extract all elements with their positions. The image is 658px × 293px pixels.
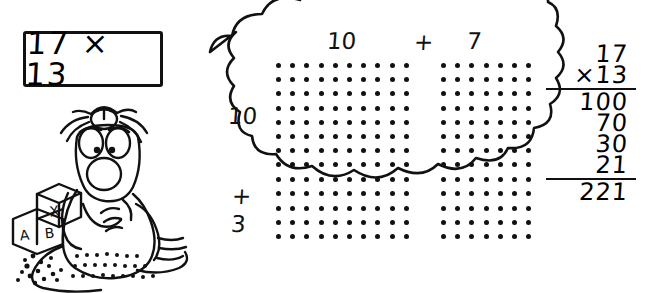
array-dot bbox=[390, 220, 395, 225]
array-dot bbox=[319, 77, 324, 82]
long-multiplication: 17 ×13 100 70 30 21 221 bbox=[552, 44, 636, 203]
array-dot bbox=[276, 191, 281, 196]
array-dot bbox=[526, 206, 531, 211]
array-dot bbox=[441, 234, 446, 239]
array-dot bbox=[347, 148, 352, 153]
array-dot bbox=[347, 234, 352, 239]
array-dot bbox=[484, 134, 489, 139]
partial-product-4: 21 bbox=[551, 155, 636, 176]
array-dot bbox=[526, 63, 531, 68]
array-dot bbox=[304, 177, 309, 182]
array-dot bbox=[304, 220, 309, 225]
column-header-7: 7 bbox=[466, 30, 482, 53]
array-dot bbox=[361, 177, 366, 182]
array-dot bbox=[361, 191, 366, 196]
array-dot bbox=[455, 220, 460, 225]
array-dot bbox=[498, 134, 503, 139]
array-dot bbox=[390, 77, 395, 82]
array-dot bbox=[290, 63, 295, 68]
array-dot bbox=[526, 77, 531, 82]
array-dot bbox=[304, 77, 309, 82]
array-dot bbox=[484, 106, 489, 111]
array-dot bbox=[375, 162, 380, 167]
array-dot bbox=[469, 177, 474, 182]
array-dot bbox=[319, 206, 324, 211]
array-dot bbox=[290, 177, 295, 182]
array-dot bbox=[276, 134, 281, 139]
array-dot bbox=[441, 191, 446, 196]
array-dot bbox=[498, 206, 503, 211]
array-dot bbox=[455, 206, 460, 211]
row-header-plus: + bbox=[231, 185, 252, 208]
array-dot bbox=[484, 148, 489, 153]
array-dot bbox=[512, 91, 517, 96]
array-dot bbox=[276, 220, 281, 225]
array-dot bbox=[484, 191, 489, 196]
array-dot bbox=[498, 220, 503, 225]
array-dot bbox=[304, 148, 309, 153]
array-dot bbox=[469, 148, 474, 153]
array-dot bbox=[319, 91, 324, 96]
array-dot bbox=[390, 191, 395, 196]
array-dot bbox=[290, 162, 295, 167]
array-dot bbox=[276, 162, 281, 167]
array-dot bbox=[498, 234, 503, 239]
array-dot bbox=[455, 120, 460, 125]
array-dot bbox=[390, 234, 395, 239]
array-dot bbox=[304, 63, 309, 68]
array-dot bbox=[512, 120, 517, 125]
array-dot bbox=[390, 206, 395, 211]
array-dot bbox=[290, 134, 295, 139]
array-dot bbox=[304, 206, 309, 211]
array-dot bbox=[347, 206, 352, 211]
array-dot bbox=[404, 134, 409, 139]
array-dot bbox=[441, 63, 446, 68]
array-dot bbox=[347, 106, 352, 111]
array-dot bbox=[319, 63, 324, 68]
array-dot bbox=[404, 120, 409, 125]
array-dot bbox=[290, 148, 295, 153]
array-dot bbox=[526, 134, 531, 139]
array-dot bbox=[276, 206, 281, 211]
array-dot bbox=[361, 63, 366, 68]
scattered-beads bbox=[16, 252, 155, 285]
array-dot bbox=[361, 91, 366, 96]
array-dot bbox=[469, 234, 474, 239]
dot-block-top-right bbox=[441, 63, 531, 196]
array-dot bbox=[455, 234, 460, 239]
array-dot bbox=[319, 148, 324, 153]
array-dot bbox=[319, 234, 324, 239]
array-dot bbox=[304, 120, 309, 125]
array-dot bbox=[484, 120, 489, 125]
array-dot bbox=[319, 177, 324, 182]
array-dot bbox=[526, 120, 531, 125]
array-dot bbox=[441, 91, 446, 96]
array-dot bbox=[512, 220, 517, 225]
array-dot bbox=[333, 77, 338, 82]
block-letter: B bbox=[44, 225, 55, 242]
array-dot bbox=[375, 120, 380, 125]
array-dot bbox=[512, 191, 517, 196]
final-answer: 221 bbox=[551, 182, 636, 203]
array-dot bbox=[375, 177, 380, 182]
dot-block-bottom-left bbox=[276, 206, 409, 239]
array-dot bbox=[276, 234, 281, 239]
array-dot bbox=[512, 177, 517, 182]
array-dot bbox=[290, 91, 295, 96]
array-dot bbox=[375, 191, 380, 196]
nose bbox=[87, 158, 121, 190]
array-dot bbox=[333, 120, 338, 125]
array-dot bbox=[404, 106, 409, 111]
array-dot bbox=[455, 91, 460, 96]
block-letter: A bbox=[19, 227, 31, 244]
array-dot bbox=[526, 106, 531, 111]
array-dot bbox=[375, 63, 380, 68]
dot-block-bottom-right bbox=[441, 206, 531, 239]
array-dot bbox=[390, 106, 395, 111]
array-dot bbox=[290, 77, 295, 82]
array-dot bbox=[361, 106, 366, 111]
array-dot bbox=[469, 63, 474, 68]
array-dot bbox=[484, 177, 489, 182]
array-dot bbox=[290, 106, 295, 111]
array-dot bbox=[455, 106, 460, 111]
